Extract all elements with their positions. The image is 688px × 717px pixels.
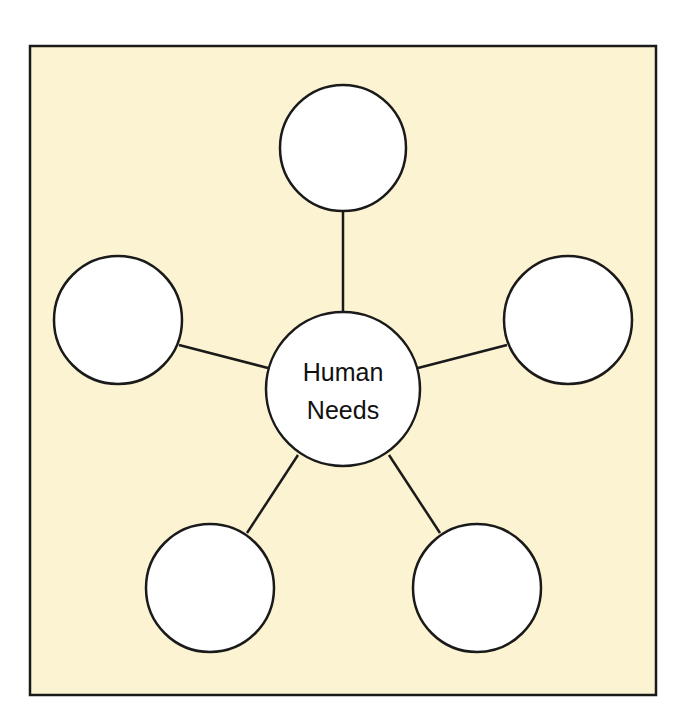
outer-node-left[interactable] (54, 256, 182, 384)
outer-node-bottom-left[interactable] (146, 524, 274, 652)
center-node (266, 312, 420, 466)
outer-node-top[interactable] (280, 85, 406, 211)
outer-node-right[interactable] (504, 256, 632, 384)
center-node-label-line2: Needs (307, 396, 379, 424)
center-node-label-line1: Human (303, 358, 384, 386)
concept-web-diagram: Human Needs (0, 0, 688, 717)
outer-node-bottom-right[interactable] (413, 524, 541, 652)
